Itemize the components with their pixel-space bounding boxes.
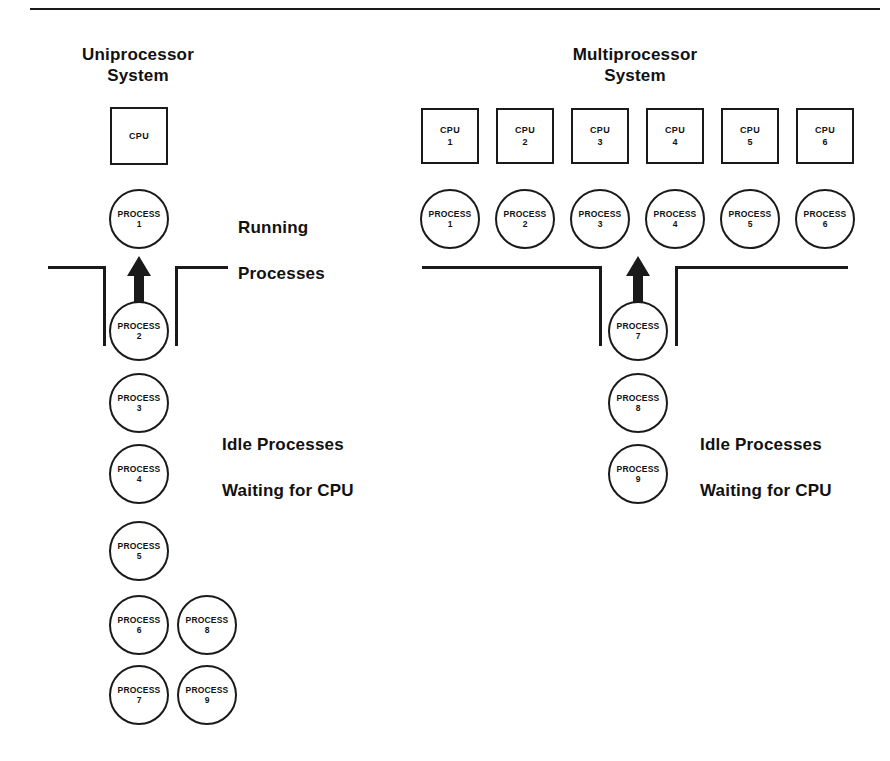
uniprocessor-gate-left-horizontal	[48, 266, 106, 269]
uniprocessor-queue-process-8[interactable]: PROCESS 8	[177, 595, 237, 655]
process-label: PROCESS	[186, 615, 229, 625]
top-horizontal-rule	[30, 8, 880, 10]
uniprocessor-queue-process-5[interactable]: PROCESS 5	[109, 521, 169, 581]
cpu-label: CPU	[515, 125, 535, 136]
process-label: PROCESS	[617, 393, 660, 403]
uniprocessor-queue-process-3[interactable]: PROCESS 3	[109, 373, 169, 433]
process-number: 8	[636, 403, 641, 414]
multiprocessor-gate-right-horizontal	[675, 266, 848, 269]
cpu-number: 4	[672, 136, 677, 148]
uniprocessor-queue-process-6[interactable]: PROCESS 6	[109, 595, 169, 655]
multiprocessor-queue-process-9[interactable]: PROCESS 9	[608, 444, 668, 504]
uniprocessor-running-label: Running Processes	[238, 193, 325, 308]
process-label: PROCESS	[118, 464, 161, 474]
process-label: PROCESS	[617, 321, 660, 331]
running-label-line2: Processes	[238, 262, 325, 285]
process-label: PROCESS	[654, 209, 697, 219]
process-label: PROCESS	[429, 209, 472, 219]
running-label-line1: Running	[238, 216, 325, 239]
cpu-label: CPU	[129, 131, 149, 142]
cpu-label: CPU	[740, 125, 760, 136]
multiprocessor-title: Multiprocessor System	[545, 44, 725, 86]
process-number: 5	[137, 551, 142, 562]
uniprocessor-cpu-box[interactable]: CPU	[110, 107, 168, 165]
process-label: PROCESS	[617, 464, 660, 474]
cpu-number: 2	[522, 136, 527, 148]
cpu-label: CPU	[665, 125, 685, 136]
process-number: 1	[137, 219, 142, 230]
idle-label-line1: Idle Processes	[222, 433, 354, 456]
uniprocessor-queue-process-7[interactable]: PROCESS 7	[109, 665, 169, 725]
uniprocessor-queue-process-9[interactable]: PROCESS 9	[177, 665, 237, 725]
uniprocessor-gate-right-horizontal	[175, 266, 228, 269]
process-number: 5	[748, 219, 753, 230]
process-number: 9	[636, 474, 641, 485]
process-number: 2	[523, 219, 528, 230]
process-label: PROCESS	[729, 209, 772, 219]
process-label: PROCESS	[504, 209, 547, 219]
process-number: 4	[673, 219, 678, 230]
multiprocessor-running-process-6[interactable]: PROCESS 6	[795, 189, 855, 249]
multiprocessor-cpu-box-3[interactable]: CPU 3	[571, 108, 629, 164]
process-label: PROCESS	[804, 209, 847, 219]
process-label: PROCESS	[118, 685, 161, 695]
process-number: 3	[137, 403, 142, 414]
process-number: 6	[137, 625, 142, 636]
multiprocessor-title-line2: System	[545, 65, 725, 86]
multiprocessor-title-line1: Multiprocessor	[545, 44, 725, 65]
cpu-number: 6	[822, 136, 827, 148]
multiprocessor-gate-left-vertical	[599, 266, 602, 346]
process-number: 6	[823, 219, 828, 230]
process-label: PROCESS	[118, 321, 161, 331]
idle-label-line2: Waiting for CPU	[222, 479, 354, 502]
multiprocessor-cpu-box-1[interactable]: CPU 1	[421, 108, 479, 164]
process-number: 1	[448, 219, 453, 230]
multiprocessor-cpu-box-2[interactable]: CPU 2	[496, 108, 554, 164]
uniprocessor-idle-label: Idle Processes Waiting for CPU	[222, 410, 354, 525]
uniprocessor-gate-right-vertical	[175, 266, 178, 346]
multiprocessor-running-process-3[interactable]: PROCESS 3	[570, 189, 630, 249]
multiprocessor-running-process-4[interactable]: PROCESS 4	[645, 189, 705, 249]
multiprocessor-queue-process-7[interactable]: PROCESS 7	[608, 301, 668, 361]
process-label: PROCESS	[118, 209, 161, 219]
process-label: PROCESS	[118, 541, 161, 551]
uniprocessor-queue-process-4[interactable]: PROCESS 4	[109, 444, 169, 504]
cpu-number: 5	[747, 136, 752, 148]
uniprocessor-title-line2: System	[58, 65, 218, 86]
process-number: 7	[137, 695, 142, 706]
cpu-number: 3	[597, 136, 602, 148]
cpu-label: CPU	[440, 125, 460, 136]
multiprocessor-running-process-2[interactable]: PROCESS 2	[495, 189, 555, 249]
cpu-number: 1	[447, 136, 452, 148]
multiprocessor-cpu-box-4[interactable]: CPU 4	[646, 108, 704, 164]
uniprocessor-running-process-1[interactable]: PROCESS 1	[109, 189, 169, 249]
process-label: PROCESS	[118, 615, 161, 625]
process-number: 2	[137, 331, 142, 342]
multiprocessor-running-process-5[interactable]: PROCESS 5	[720, 189, 780, 249]
multiprocessor-gate-left-horizontal	[422, 266, 602, 269]
idle-label-line1: Idle Processes	[700, 433, 832, 456]
cpu-label: CPU	[590, 125, 610, 136]
uniprocessor-title-line1: Uniprocessor	[58, 44, 218, 65]
idle-label-line2: Waiting for CPU	[700, 479, 832, 502]
multiprocessor-idle-label: Idle Processes Waiting for CPU	[700, 410, 832, 525]
multiprocessor-queue-process-8[interactable]: PROCESS 8	[608, 373, 668, 433]
process-label: PROCESS	[186, 685, 229, 695]
diagram-canvas: Uniprocessor System CPU PROCESS 1 Runnin…	[0, 0, 890, 761]
process-label: PROCESS	[118, 393, 161, 403]
process-number: 8	[205, 625, 210, 636]
uniprocessor-queue-process-2[interactable]: PROCESS 2	[109, 301, 169, 361]
process-number: 9	[205, 695, 210, 706]
process-label: PROCESS	[579, 209, 622, 219]
multiprocessor-gate-right-vertical	[675, 266, 678, 346]
process-number: 3	[598, 219, 603, 230]
process-number: 4	[137, 474, 142, 485]
multiprocessor-cpu-box-6[interactable]: CPU 6	[796, 108, 854, 164]
multiprocessor-cpu-box-5[interactable]: CPU 5	[721, 108, 779, 164]
multiprocessor-running-process-1[interactable]: PROCESS 1	[420, 189, 480, 249]
cpu-label: CPU	[815, 125, 835, 136]
uniprocessor-title: Uniprocessor System	[58, 44, 218, 86]
process-number: 7	[636, 331, 641, 342]
uniprocessor-gate-left-vertical	[103, 266, 106, 346]
